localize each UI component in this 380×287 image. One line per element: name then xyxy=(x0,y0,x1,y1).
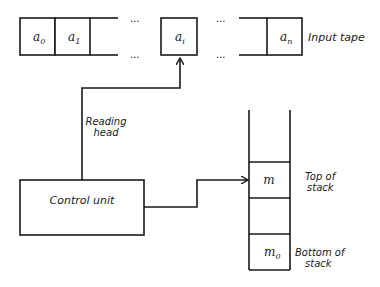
tape-ellipsis-top-1: ... xyxy=(130,13,140,24)
bottom-of-stack-label-line2: stack xyxy=(305,258,333,269)
control-unit: Control unit xyxy=(20,180,144,235)
top-of-stack-label-line2: stack xyxy=(307,182,335,193)
top-of-stack-label-line1: Top of xyxy=(305,171,337,182)
control-unit-label: Control unit xyxy=(50,194,116,207)
bottom-of-stack-label-line1: Bottom of xyxy=(295,247,346,258)
stack-access-arrow xyxy=(144,180,248,207)
pushdown-automaton-diagram: ... ... ... ... a0 a1 ai an Input tape R… xyxy=(0,0,380,287)
reading-head-label-line1: Reading xyxy=(85,116,126,127)
reading-head-connector: Reading head xyxy=(82,58,180,180)
input-tape-label: Input tape xyxy=(308,31,365,44)
reading-head-label-line2: head xyxy=(94,127,120,138)
control-unit-box xyxy=(20,180,144,235)
stack-top-symbol: m xyxy=(263,173,274,187)
input-tape: ... ... ... ... a0 a1 ai an Input tape xyxy=(20,13,365,60)
stack-bottom-symbol: m0 xyxy=(264,245,280,261)
stack: m m0 Top of stack Bottom of stack xyxy=(249,110,346,270)
tape-ellipsis-top-2: ... xyxy=(216,13,226,24)
tape-ellipsis-bottom-2: ... xyxy=(216,49,226,60)
tape-ellipsis-bottom-1: ... xyxy=(130,49,140,60)
